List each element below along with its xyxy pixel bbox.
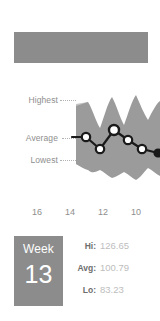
stat-row-avg: Avg: 100.79 bbox=[70, 262, 156, 284]
week-number: 13 bbox=[14, 260, 63, 288]
range-chart: Highest Average Lowest bbox=[0, 92, 160, 192]
stat-row-lo: Lo: 83.23 bbox=[70, 284, 156, 306]
week-label: Week bbox=[14, 242, 63, 256]
stat-label-lo: Lo: bbox=[70, 285, 96, 295]
x-tick: 12 bbox=[94, 207, 112, 217]
chart-label-highest: Highest bbox=[8, 95, 58, 105]
leader-line-lowest bbox=[60, 160, 76, 161]
chart-label-average: Average bbox=[8, 133, 58, 143]
stat-value-hi: 126.65 bbox=[100, 240, 129, 251]
stats-list: Hi: 126.65 Avg: 100.79 Lo: 83.23 bbox=[70, 240, 156, 306]
summary-footer: Week 13 Hi: 126.65 Avg: 100.79 Lo: 83.23 bbox=[0, 236, 160, 308]
widget-root: Highest Average Lowest 16 14 12 10 Week … bbox=[0, 0, 160, 321]
x-tick: 14 bbox=[61, 207, 79, 217]
stat-value-lo: 83.23 bbox=[100, 284, 124, 295]
week-badge[interactable]: Week 13 bbox=[14, 236, 63, 306]
x-axis-ticks: 16 14 12 10 bbox=[0, 207, 160, 223]
stat-row-hi: Hi: 126.65 bbox=[70, 240, 156, 262]
chart-label-lowest: Lowest bbox=[8, 155, 58, 165]
data-point-marker[interactable] bbox=[96, 145, 104, 153]
data-point-marker[interactable] bbox=[154, 149, 160, 156]
data-point-marker[interactable] bbox=[138, 145, 146, 153]
stat-value-avg: 100.79 bbox=[100, 262, 129, 273]
header-placeholder-block bbox=[14, 32, 148, 63]
data-point-marker[interactable] bbox=[109, 125, 119, 135]
leader-line-highest bbox=[60, 100, 76, 101]
x-tick: 16 bbox=[28, 207, 46, 217]
leader-line-average bbox=[62, 138, 76, 139]
data-point-marker[interactable] bbox=[124, 136, 132, 144]
x-tick: 10 bbox=[127, 207, 145, 217]
data-point-marker[interactable] bbox=[82, 133, 90, 141]
stat-label-hi: Hi: bbox=[70, 241, 96, 251]
stat-label-avg: Avg: bbox=[61, 263, 96, 273]
